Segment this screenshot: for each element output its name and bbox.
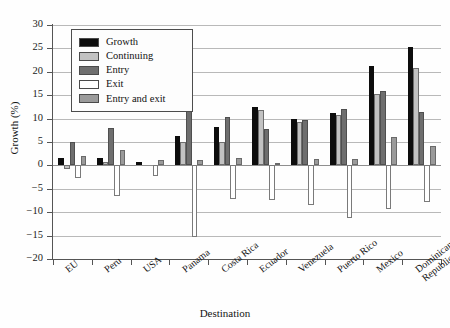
legend-item: Entry and exit — [79, 92, 185, 106]
y-axis-tick-label: 10 — [0, 113, 43, 124]
bar — [81, 156, 87, 166]
x-axis-tick-label-line: EU — [63, 258, 80, 275]
bar — [264, 129, 270, 165]
y-axis-tick-mark — [47, 25, 52, 26]
y-axis-tick-label: 5 — [0, 136, 43, 147]
bar — [153, 165, 159, 176]
legend-swatch-icon — [79, 52, 99, 61]
bar — [230, 165, 236, 199]
y-axis-tick-mark — [47, 119, 52, 120]
bar — [314, 159, 320, 165]
y-axis-tick-mark — [47, 259, 52, 260]
bar — [136, 162, 142, 166]
bar — [70, 142, 76, 165]
bar — [430, 146, 436, 165]
bar — [424, 165, 430, 202]
y-axis-tick-mark — [47, 236, 52, 237]
y-axis-tick-label: 25 — [0, 42, 43, 53]
legend-item-label: Exit — [106, 79, 124, 90]
x-axis-tick-mark — [402, 260, 403, 265]
legend-item-label: Entry — [106, 65, 129, 76]
y-axis-tick-label: −5 — [0, 183, 43, 194]
x-axis-title: Destination — [0, 307, 450, 319]
legend-item-label: Entry and exit — [106, 94, 165, 105]
bar-group — [408, 25, 436, 259]
bar — [197, 160, 203, 165]
x-axis-tick-mark — [92, 260, 93, 265]
y-axis-tick-label: −10 — [0, 206, 43, 217]
y-axis-tick-label: 0 — [0, 159, 43, 170]
x-axis-tick-mark — [286, 260, 287, 265]
x-axis-tick-label: EU — [63, 258, 80, 275]
bar — [114, 165, 120, 196]
bar — [308, 165, 314, 205]
legend-swatch-icon — [79, 94, 99, 103]
legend-item-label: Continuing — [106, 51, 153, 62]
y-axis-tick-mark — [47, 165, 52, 166]
legend-item: Entry — [79, 63, 185, 77]
y-axis-tick-mark — [47, 72, 52, 73]
bar — [380, 91, 386, 165]
bar — [64, 165, 70, 169]
y-axis-tick-label: 30 — [0, 19, 43, 30]
bar — [352, 159, 358, 166]
y-axis-tick-mark — [47, 142, 52, 143]
bar — [341, 109, 347, 166]
x-axis-tick-mark — [53, 260, 54, 265]
bar — [419, 112, 425, 166]
x-axis-tick-mark — [208, 260, 209, 265]
bar — [192, 165, 198, 237]
x-axis-tick-mark — [325, 260, 326, 265]
bar-group — [252, 25, 280, 259]
bar — [391, 137, 397, 166]
bar-group — [214, 25, 242, 259]
x-axis-tick-mark — [363, 260, 364, 265]
y-axis-tick-mark — [47, 95, 52, 96]
legend-item: Exit — [79, 78, 185, 92]
bar — [75, 165, 81, 177]
legend-swatch-icon — [79, 80, 99, 89]
x-axis-tick-mark — [131, 260, 132, 265]
x-axis-tick-mark — [247, 260, 248, 265]
legend-item: Continuing — [79, 49, 185, 63]
bar — [158, 160, 164, 165]
y-axis-tick-mark — [47, 48, 52, 49]
legend-swatch-icon — [79, 38, 99, 47]
y-axis-tick-mark — [47, 212, 52, 213]
bar — [347, 165, 353, 217]
x-axis-tick-mark — [169, 260, 170, 265]
legend-item: Growth — [79, 35, 185, 49]
bar — [269, 165, 275, 200]
bar — [108, 128, 114, 165]
y-axis-tick-label: −15 — [0, 230, 43, 241]
bar — [386, 165, 392, 209]
legend-swatch-icon — [79, 66, 99, 75]
bar — [120, 150, 126, 165]
chart-legend: GrowthContinuingEntryExitEntry and exit — [71, 29, 193, 112]
bar — [275, 163, 281, 166]
chart-figure: 302520151050−5−10−15−20 EUPeruUSAPanamaC… — [0, 0, 450, 328]
y-axis-title: Growth (%) — [8, 78, 20, 178]
y-axis-tick-label: 15 — [0, 89, 43, 100]
bar-group — [291, 25, 319, 259]
bar — [236, 158, 242, 165]
bar — [302, 120, 308, 166]
bar — [58, 158, 64, 165]
y-axis-tick-label: −20 — [0, 253, 43, 264]
bar-group — [369, 25, 397, 259]
legend-item-label: Growth — [106, 37, 138, 48]
y-axis-tick-mark — [47, 189, 52, 190]
y-axis-tick-label: 20 — [0, 66, 43, 77]
bar — [225, 117, 231, 166]
bar-group — [330, 25, 358, 259]
